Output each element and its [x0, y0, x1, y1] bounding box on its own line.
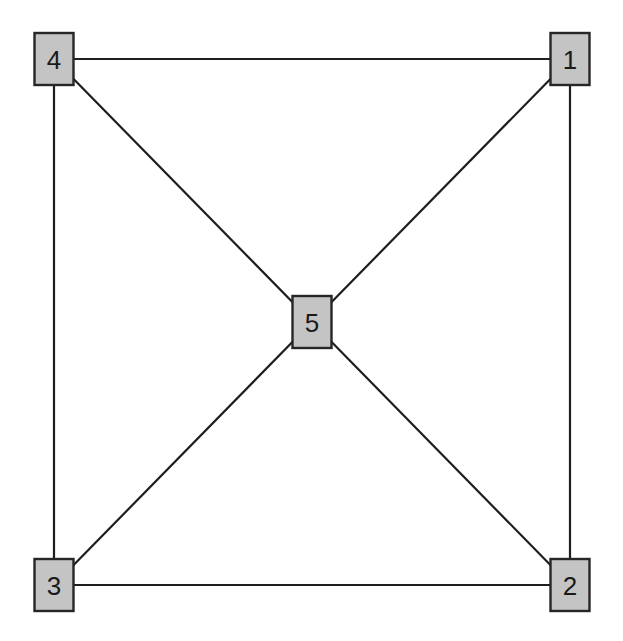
edge-2-5 — [312, 322, 570, 585]
node-label: 5 — [305, 308, 319, 338]
node-label: 2 — [563, 571, 577, 601]
node-1: 1 — [551, 33, 590, 85]
edge-1-5 — [312, 59, 570, 322]
graph-diagram: 12345 — [0, 0, 623, 641]
node-label: 3 — [47, 571, 61, 601]
node-3: 3 — [35, 559, 74, 611]
edge-3-5 — [54, 322, 312, 585]
node-2: 2 — [551, 559, 590, 611]
node-label: 1 — [563, 45, 577, 75]
node-4: 4 — [35, 33, 74, 85]
node-5: 5 — [293, 296, 332, 348]
nodes-layer: 12345 — [35, 33, 590, 611]
edge-4-5 — [54, 59, 312, 322]
node-label: 4 — [47, 45, 61, 75]
